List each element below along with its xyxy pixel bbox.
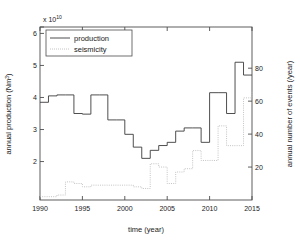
- y-axis-exponent: x 1010: [43, 14, 62, 23]
- legend-label-seismicity: seismicity: [74, 45, 107, 54]
- y-right-axis-title: annual number of events (/year): [285, 60, 294, 167]
- x-axis-title: time (year): [128, 225, 164, 234]
- production-step-line: [40, 62, 252, 158]
- x-tick-label: 1995: [75, 205, 91, 212]
- chart-canvas: 199019952000200520102015 23456 20406080 …: [0, 0, 300, 250]
- y-left-tick-label: 5: [33, 62, 37, 69]
- y-left-tick-label: 6: [33, 30, 37, 37]
- legend: production seismicity: [46, 30, 132, 56]
- y-left-tick-label: 2: [33, 158, 37, 165]
- x-tick-label: 1990: [32, 205, 48, 212]
- y-right-tick-label: 80: [255, 65, 263, 72]
- y-left-title-main: annual production (Nm: [4, 79, 13, 155]
- exponent-value: 10: [56, 14, 62, 20]
- seismicity-series: [40, 91, 252, 196]
- y-left-axis-title: annual production (Nm3): [4, 73, 14, 155]
- y-right-tick-label: 60: [255, 98, 263, 105]
- legend-label-production: production: [74, 34, 109, 43]
- x-tick-label: 2010: [202, 205, 218, 212]
- seismicity-step-line: [40, 91, 252, 196]
- figure-container: 199019952000200520102015 23456 20406080 …: [0, 0, 300, 250]
- y-right-tick-label: 20: [255, 164, 263, 171]
- y-left-tick-label: 4: [33, 94, 37, 101]
- y-right-axis-ticks: 20406080: [248, 65, 263, 171]
- exponent-prefix: x 10: [43, 16, 56, 23]
- x-tick-label: 2015: [244, 205, 260, 212]
- y-left-tick-label: 3: [33, 126, 37, 133]
- production-series: [40, 62, 252, 158]
- y-left-title-close: ): [4, 73, 13, 76]
- x-tick-label: 2000: [117, 205, 133, 212]
- y-right-tick-label: 40: [255, 131, 263, 138]
- y-left-axis-ticks: 23456: [33, 27, 44, 165]
- x-tick-label: 2005: [159, 205, 175, 212]
